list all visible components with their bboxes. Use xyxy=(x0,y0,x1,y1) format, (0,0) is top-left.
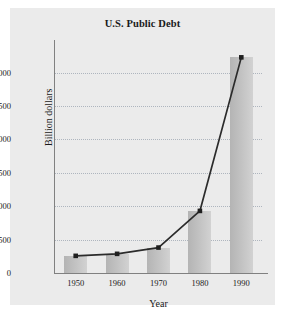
data-point-marker xyxy=(115,252,120,257)
y-tick-label: 3,000 xyxy=(0,68,11,78)
y-tick-label: 500 xyxy=(0,235,11,245)
data-point-marker xyxy=(73,254,78,259)
data-point-marker xyxy=(198,209,203,214)
series-line xyxy=(76,57,242,255)
y-tick-label: 2,000 xyxy=(0,134,11,144)
chart-figure: U.S. Public Debt 05001,0001,5002,0002,50… xyxy=(10,8,275,305)
x-tick-label: 1980 xyxy=(178,278,222,288)
x-axis-label: Year xyxy=(55,298,262,309)
x-tick-label: 1960 xyxy=(95,278,139,288)
y-tick-label: 1,000 xyxy=(0,201,11,211)
y-tick-label: 1,500 xyxy=(0,168,11,178)
y-axis-label: Billion dollars xyxy=(43,89,54,147)
data-point-marker xyxy=(156,245,161,250)
plot-area: 05001,0001,5002,0002,5003,000 1950196019… xyxy=(55,46,262,273)
line-series xyxy=(55,46,262,273)
x-axis-line xyxy=(54,273,268,274)
x-tick-label: 1950 xyxy=(54,278,98,288)
x-tick-label: 1970 xyxy=(137,278,181,288)
data-point-marker xyxy=(239,55,244,60)
chart-title: U.S. Public Debt xyxy=(10,18,275,29)
x-tick-label: 1990 xyxy=(219,278,263,288)
y-tick-label: 2,500 xyxy=(0,101,11,111)
y-tick-label: 0 xyxy=(0,268,11,278)
